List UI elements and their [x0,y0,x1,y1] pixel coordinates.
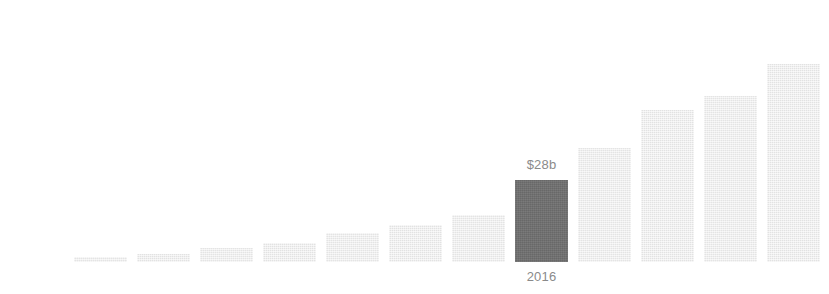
bar [452,215,505,262]
bar-category-label: 2016 [515,269,568,284]
bar [137,254,190,262]
bar [74,257,127,262]
bar [641,110,694,262]
bar [767,64,820,262]
bar [326,233,379,262]
bar-value-label: $28b [515,157,568,172]
bar [263,243,316,262]
bar [578,148,631,262]
bar [200,248,253,262]
plot-area: $28b2016 [0,0,829,294]
bar-highlighted [515,180,568,262]
bar-chart: $28b2016 [0,0,829,294]
bar [704,96,757,262]
bar [389,225,442,262]
